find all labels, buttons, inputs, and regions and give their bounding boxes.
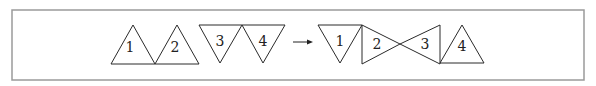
after-triangle-4: 4 [440,25,484,63]
after-triangle-1: 1 [318,25,362,63]
triangle-label: 4 [259,33,268,49]
before-group: 1 2 3 4 [111,25,285,64]
triangle-label: 2 [171,39,180,55]
transform-arrow-icon [293,40,313,45]
after-triangle-2: 2 [362,25,400,64]
diagram-canvas: 1 2 3 4 1 2 3 4 [0,0,596,86]
before-triangle-3: 3 [199,25,242,63]
triangle-label: 2 [373,36,382,52]
triangle-label: 1 [336,33,345,49]
before-triangle-2: 2 [155,25,199,64]
triangle-label: 3 [421,36,430,52]
triangle-label: 3 [216,33,225,49]
after-group: 1 2 3 4 [318,25,484,64]
before-triangle-4: 4 [242,25,285,63]
triangle-label: 1 [126,39,135,55]
after-triangle-3: 3 [400,25,440,64]
before-triangle-1: 1 [111,25,155,64]
diagram-frame [12,10,584,80]
triangle-label: 4 [458,38,467,54]
